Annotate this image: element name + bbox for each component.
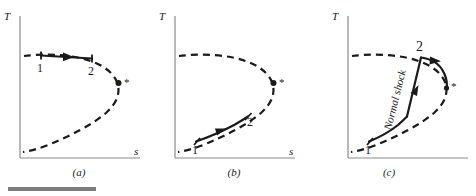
sonic-point-dot: [444, 85, 449, 90]
x-axis-label: s: [134, 146, 138, 157]
state-1-label: 1: [37, 62, 43, 74]
bottom-rule-divider: [8, 187, 96, 191]
panel-b-plot: [155, 0, 313, 168]
sonic-star-label: *: [279, 77, 285, 88]
panel-c-caption: (c): [310, 166, 468, 178]
panel-c: T 1 2 * Normal shock (c): [310, 0, 468, 196]
sonic-star-label: *: [451, 81, 457, 92]
y-axis-label: T: [4, 11, 10, 22]
state-2-label: 2: [416, 40, 423, 54]
panel-a: T s 1 2 * (a): [0, 0, 158, 196]
sonic-point-dot: [116, 80, 122, 86]
fanno-line-figure: T s 1 2 * (a) T s 1 2 * (b): [0, 0, 476, 196]
panel-b: T s 1 2 * (b): [155, 0, 313, 196]
panel-a-plot: [0, 0, 158, 168]
sonic-star-label: *: [124, 77, 130, 88]
state-1-label: 1: [365, 144, 371, 156]
state-1-label: 1: [192, 144, 198, 156]
normal-shock-path: [407, 58, 421, 117]
y-axis-label: T: [159, 11, 165, 22]
flow-arrow-icon: [215, 129, 227, 136]
fanno-line-curve: [178, 55, 274, 152]
flow-arrow-icon: [63, 53, 74, 62]
panel-c-plot: [310, 0, 468, 168]
sonic-point-dot: [271, 80, 277, 86]
panel-a-caption: (a): [0, 166, 158, 178]
x-axis-label: s: [289, 146, 293, 157]
y-axis-label: T: [332, 11, 338, 22]
panel-b-caption: (b): [155, 166, 313, 178]
state-2-label: 2: [88, 65, 94, 77]
state-2-label: 2: [247, 116, 253, 128]
